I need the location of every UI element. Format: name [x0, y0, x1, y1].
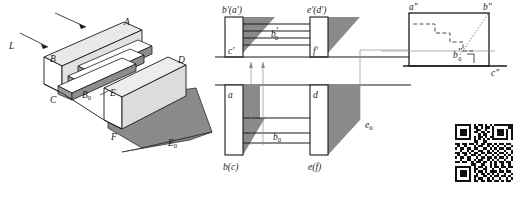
- qr-module: [485, 140, 487, 142]
- qr-module: [462, 147, 464, 149]
- projection-line-1-arrowhead: [249, 62, 253, 68]
- top-label-b0-sub: 0: [278, 136, 281, 143]
- qr-module: [471, 150, 473, 152]
- qr-module: [478, 129, 480, 131]
- qr-module: [492, 136, 494, 138]
- qr-module: [476, 175, 478, 177]
- qr-module: [501, 147, 503, 149]
- qr-module: [497, 124, 499, 126]
- qr-module: [494, 138, 496, 140]
- qr-module: [469, 138, 471, 140]
- qr-module: [490, 170, 492, 172]
- qr-module: [460, 159, 462, 161]
- qr-module: [455, 166, 457, 168]
- qr-module: [474, 159, 476, 161]
- qr-module: [457, 152, 459, 154]
- qr-module: [464, 138, 466, 140]
- qr-module: [497, 180, 499, 182]
- side-label-b-dprime: b″: [483, 2, 493, 12]
- qr-module: [506, 180, 508, 182]
- qr-module: [464, 166, 466, 168]
- qr-module: [504, 150, 506, 152]
- qr-module: [469, 180, 471, 182]
- qr-module: [457, 143, 459, 145]
- qr-module: [462, 143, 464, 145]
- qr-module: [490, 180, 492, 182]
- vertex-label-d: D: [177, 55, 185, 65]
- qr-module: [478, 170, 480, 172]
- qr-module: [474, 152, 476, 154]
- qr-module: [474, 180, 476, 182]
- qr-module: [478, 166, 480, 168]
- qr-module: [497, 133, 499, 135]
- qr-module: [506, 129, 508, 131]
- top-label-bc: b(c): [223, 162, 238, 173]
- vertex-label-b: B: [50, 54, 56, 64]
- qr-module: [471, 163, 473, 165]
- qr-module: [494, 175, 496, 177]
- qr-module: [494, 147, 496, 149]
- qr-module: [467, 180, 469, 182]
- qr-module: [499, 168, 501, 170]
- qr-module: [481, 159, 483, 161]
- qr-module: [483, 133, 485, 135]
- qr-module: [462, 173, 464, 175]
- qr-module: [481, 145, 483, 147]
- qr-module: [497, 129, 499, 131]
- qr-module: [485, 175, 487, 177]
- qr-module: [494, 180, 496, 182]
- qr-module: [481, 131, 483, 133]
- qr-module: [506, 168, 508, 170]
- qr-module: [469, 166, 471, 168]
- qr-module: [501, 163, 503, 165]
- qr-module: [492, 145, 494, 147]
- qr-module: [494, 166, 496, 168]
- qr-module: [508, 143, 510, 145]
- side-label-c-dprime: c″: [491, 68, 500, 78]
- qr-module: [455, 143, 457, 145]
- qr-module: [497, 166, 499, 168]
- qr-module: [455, 138, 457, 140]
- qr-module: [478, 159, 480, 161]
- qr-module: [504, 154, 506, 156]
- qr-module: [478, 124, 480, 126]
- qr-module: [511, 124, 513, 126]
- qr-module: [476, 129, 478, 131]
- qr-module: [460, 166, 462, 168]
- qr-module: [474, 131, 476, 133]
- qr-module: [487, 126, 489, 128]
- qr-module: [511, 145, 513, 147]
- qr-module: [487, 150, 489, 152]
- qr-module: [467, 159, 469, 161]
- qr-module: [499, 133, 501, 135]
- qr-module: [469, 129, 471, 131]
- qr-module: [471, 161, 473, 163]
- qr-module: [508, 126, 510, 128]
- qr-module: [455, 161, 457, 163]
- qr-module: [506, 161, 508, 163]
- qr-module: [490, 143, 492, 145]
- qr-module: [508, 161, 510, 163]
- light-ray-label: L: [8, 41, 14, 51]
- qr-module: [474, 177, 476, 179]
- qr-module: [497, 131, 499, 133]
- qr-module: [474, 124, 476, 126]
- qr-module: [504, 175, 506, 177]
- qr-module: [497, 145, 499, 147]
- qr-module: [474, 136, 476, 138]
- qr-module: [504, 159, 506, 161]
- qr-module: [492, 150, 494, 152]
- qr-module: [501, 152, 503, 154]
- qr-module: [494, 124, 496, 126]
- qr-module: [483, 173, 485, 175]
- top-label-a: a: [228, 90, 233, 100]
- side-label-b0-dprime-sub: 0: [458, 55, 461, 62]
- qr-module: [511, 129, 513, 131]
- qr-code[interactable]: [455, 124, 513, 182]
- qr-module: [499, 177, 501, 179]
- qr-module: [490, 156, 492, 158]
- qr-module: [467, 166, 469, 168]
- qr-module: [469, 143, 471, 145]
- qr-module: [483, 140, 485, 142]
- qr-module: [499, 143, 501, 145]
